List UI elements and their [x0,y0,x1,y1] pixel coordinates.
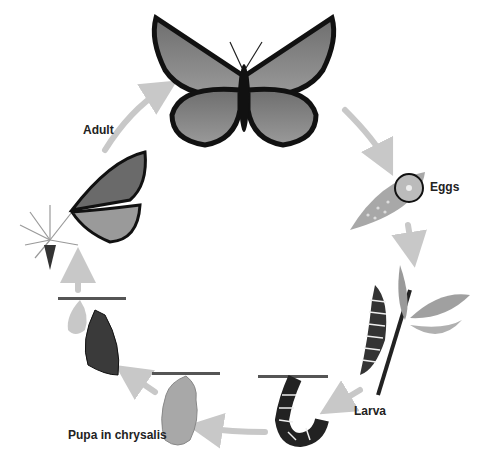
life-cycle-diagram [0,0,497,451]
stage-label-eggs: Eggs [430,180,459,194]
adult-butterfly-icon [154,18,333,145]
eggs-leaf-icon [350,172,425,230]
adult-on-flower-icon [20,152,145,270]
larva-on-plant-icon [360,265,470,395]
hanging-larva-icon [258,375,328,440]
stage-label-larva: Larva [354,404,386,418]
stage-label-adult: Adult [83,123,114,137]
cycle-arrows [78,90,412,432]
stage-label-pupa: Pupa in chrysalis [68,428,167,442]
emerging-butterfly-icon [58,297,126,375]
